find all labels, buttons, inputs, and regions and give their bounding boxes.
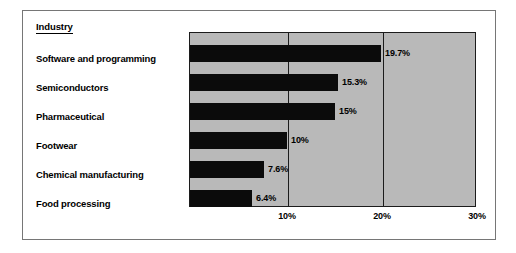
bar-value-chemical-manufacturing: 7.6%	[268, 161, 288, 178]
bar-value-pharmaceutical: 15%	[339, 103, 357, 120]
bar-value-semiconductors: 15.3%	[342, 74, 367, 91]
category-label-food-processing: Food processing	[36, 198, 110, 209]
xtick-label-20-percent: 20%	[373, 211, 391, 221]
xtick-label-30-percent: 30%	[468, 211, 486, 221]
category-label-software-and-programming: Software and programming	[36, 53, 156, 64]
bar-pharmaceutical	[190, 103, 335, 120]
bar-chemical-manufacturing	[190, 161, 264, 178]
bar-food-processing	[190, 190, 252, 207]
category-label-pharmaceutical: Pharmaceutical	[36, 111, 104, 122]
chart-figure-frame: Industry Software and programming Semico…	[22, 10, 496, 240]
bar-value-footwear: 10%	[291, 132, 309, 149]
plot-area: 19.7% 15.3% 15% 10% 7.6% 6.4%	[189, 32, 476, 207]
bar-software-and-programming	[190, 45, 381, 62]
category-axis: Industry Software and programming Semico…	[23, 11, 189, 241]
category-label-semiconductors: Semiconductors	[36, 82, 108, 93]
gridline-20-percent	[383, 33, 384, 206]
category-label-footwear: Footwear	[36, 140, 77, 151]
bar-value-food-processing: 6.4%	[256, 190, 276, 207]
xtick-label-10-percent: 10%	[278, 211, 296, 221]
bar-value-software-and-programming: 19.7%	[385, 45, 410, 62]
category-axis-title: Industry	[36, 21, 73, 34]
value-axis: 10% 20% 30%	[189, 208, 479, 228]
category-label-chemical-manufacturing: Chemical manufacturing	[36, 169, 144, 180]
bar-semiconductors	[190, 74, 338, 91]
bar-footwear	[190, 132, 287, 149]
